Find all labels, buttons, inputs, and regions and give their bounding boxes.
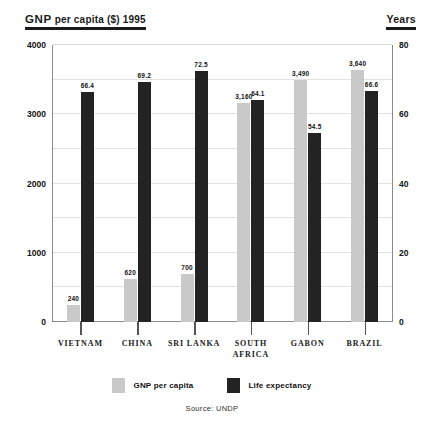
bar-life-expectancy (138, 82, 151, 322)
category-label: VIETNAM (48, 338, 113, 349)
right-title-underline (386, 27, 416, 30)
bar-life-expectancy (365, 91, 378, 322)
x-axis-tick (137, 322, 139, 335)
bar-value-label-gnp: 620 (115, 269, 146, 276)
bar-value-label-life: 66.6 (358, 81, 385, 88)
gridline (53, 183, 392, 184)
category-label: SOUTH AFRICA (219, 338, 284, 360)
bar-value-label-gnp: 700 (172, 264, 203, 271)
bar-value-label-life: 66.4 (74, 82, 101, 89)
gridline (53, 286, 392, 287)
left-axis-title-strong: GNP (25, 13, 52, 25)
category-label: BRAZIL (332, 338, 397, 349)
gridline (53, 217, 392, 218)
left-tick-label: 4000 (6, 40, 46, 50)
right-axis-title: Years (386, 13, 416, 30)
left-tick-label: 1000 (6, 248, 46, 258)
bar-life-expectancy (81, 92, 94, 322)
legend-item-life: Life expectancy (227, 378, 311, 393)
right-tick-label: 20 (399, 248, 424, 258)
x-axis-tick (80, 322, 82, 335)
source-note: Source: UNDP (0, 404, 424, 413)
bar-value-label-life: 64.1 (244, 90, 271, 97)
bar-value-label-gnp: 240 (58, 295, 89, 302)
x-axis-tick (308, 322, 310, 335)
left-title-underline (25, 27, 146, 30)
chart-legend: GNP per capitaLife expectancy (0, 378, 424, 393)
gridline (53, 113, 392, 114)
category-label: SRI LANKA (162, 338, 227, 349)
category-label: GABON (275, 338, 340, 349)
bar-gnp-per-capita (67, 305, 80, 322)
legend-swatch-gnp-icon (112, 378, 125, 393)
x-axis-tick (251, 322, 253, 335)
gridline (53, 252, 392, 253)
gridline (53, 321, 392, 323)
gridline (53, 44, 392, 45)
left-tick-label: 0 (6, 317, 46, 327)
bar-gnp-per-capita (124, 279, 137, 322)
x-axis-tick (194, 322, 196, 335)
right-tick-label: 0 (399, 317, 424, 327)
bar-gnp-per-capita (294, 80, 307, 322)
bar-life-expectancy (195, 71, 208, 322)
left-axis-title: GNP per capita ($) 1995 (25, 13, 146, 30)
plot-area (52, 45, 393, 322)
bar-life-expectancy (308, 133, 321, 322)
bar-gnp-per-capita (351, 70, 364, 322)
bar-value-label-life: 54.5 (301, 123, 328, 130)
bar-value-label-life: 72.5 (188, 61, 215, 68)
left-tick-label: 3000 (6, 109, 46, 119)
bar-value-label-gnp: 3,490 (285, 70, 316, 77)
right-axis-title-text: Years (386, 13, 416, 25)
legend-label-gnp: GNP per capita (133, 381, 193, 390)
category-label: CHINA (105, 338, 170, 349)
left-tick-label: 2000 (6, 179, 46, 189)
right-tick-label: 80 (399, 40, 424, 50)
right-tick-label: 60 (399, 109, 424, 119)
legend-swatch-life-icon (227, 378, 240, 393)
legend-label-life: Life expectancy (248, 381, 311, 390)
chart-page: GNP per capita ($) 1995 Years 0100020003… (0, 0, 424, 424)
bar-life-expectancy (251, 100, 264, 322)
legend-item-gnp: GNP per capita (112, 378, 193, 393)
gridline (53, 148, 392, 149)
bar-gnp-per-capita (181, 274, 194, 322)
left-axis-title-rest: per capita ($) 1995 (52, 14, 146, 25)
bar-value-label-life: 69.2 (131, 72, 158, 79)
right-tick-label: 40 (399, 179, 424, 189)
x-axis-tick (365, 322, 367, 335)
gridline (53, 79, 392, 80)
bar-value-label-gnp: 3,640 (342, 60, 373, 67)
bar-gnp-per-capita (237, 103, 250, 322)
